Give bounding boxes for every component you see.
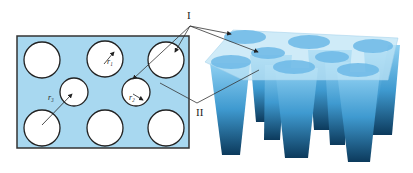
- diagram-canvas: [0, 0, 413, 173]
- label-region-I: I: [187, 9, 191, 21]
- perspective-view: [205, 30, 400, 162]
- label-region-II: II: [196, 106, 203, 118]
- plan-view: [17, 36, 189, 148]
- label-r3: r₃: [48, 93, 54, 102]
- label-r1: r₁: [107, 57, 113, 66]
- label-r2: r₂: [129, 93, 135, 102]
